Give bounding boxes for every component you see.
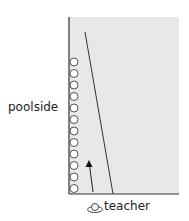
swimmer-circle (70, 81, 78, 89)
swimmer-circle (70, 162, 78, 170)
swimmer-circle (70, 104, 78, 112)
pool-area (69, 17, 179, 194)
swimmer-circle (70, 150, 78, 158)
poolside-label: poolside (8, 100, 58, 114)
teacher-label: teacher (104, 199, 150, 213)
teacher-top-view-icon (88, 204, 103, 213)
swimmer-circle (70, 185, 78, 193)
swimmer-circle (70, 93, 78, 101)
swimmer-circle (70, 127, 78, 135)
swimmer-circle (70, 116, 78, 124)
swimmer-circle (70, 139, 78, 147)
swimmer-circle (70, 58, 78, 66)
swimmer-circle (70, 70, 78, 78)
swimmer-circle (70, 173, 78, 181)
